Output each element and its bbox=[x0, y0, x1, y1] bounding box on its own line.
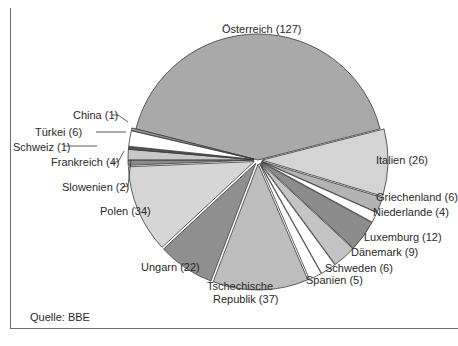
label-schweden: Schweden (6) bbox=[325, 262, 393, 274]
source-note: Quelle: BBE bbox=[30, 311, 90, 323]
label-italien: Italien (26) bbox=[376, 154, 428, 166]
label-schweiz: Schweiz (1) bbox=[13, 141, 70, 153]
label-luxemburg: Luxemburg (12) bbox=[364, 231, 442, 243]
label-tuerkei: Türkei (6) bbox=[35, 126, 82, 138]
label-polen: Polen (34) bbox=[100, 205, 151, 217]
label-oesterreich: Österreich (127) bbox=[222, 23, 301, 35]
pie-slices bbox=[128, 34, 388, 290]
label-slowenien: Slowenien (2) bbox=[62, 181, 129, 193]
label-niederlande: Niederlande (4) bbox=[373, 206, 449, 218]
label-ungarn: Ungarn (22) bbox=[141, 261, 200, 273]
label-tschechien-2: Republik (37) bbox=[213, 293, 278, 305]
label-frankreich: Frankreich (4) bbox=[51, 156, 119, 168]
label-daenemark: Dänemark (9) bbox=[351, 246, 418, 258]
pie-chart: Österreich (127) Italien (26) Griechenla… bbox=[0, 0, 458, 346]
label-spanien: Spanien (5) bbox=[306, 274, 363, 286]
label-griechenland: Griechenland (6) bbox=[376, 191, 458, 203]
label-china: China (1) bbox=[73, 109, 118, 121]
label-tschechien-1: Tschechische bbox=[207, 280, 273, 292]
